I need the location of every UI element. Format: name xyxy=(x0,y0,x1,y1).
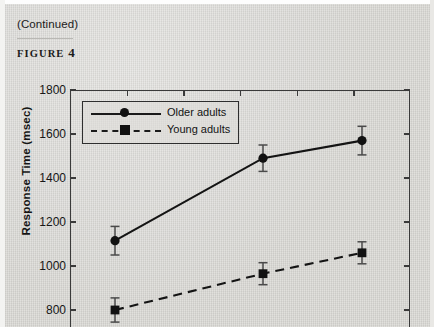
data-point-circle xyxy=(357,136,366,145)
scanned-page: (Continued) FIGURE 4 1800160014001200100… xyxy=(0,0,434,327)
y-axis-tick xyxy=(70,309,76,310)
y-axis-tick xyxy=(404,89,410,90)
x-axis-tick xyxy=(183,90,184,96)
x-axis-tick xyxy=(297,90,298,96)
y-axis-tick xyxy=(70,177,76,178)
data-point-circle xyxy=(110,236,119,245)
x-axis-tick xyxy=(127,90,128,96)
figure-number: 4 xyxy=(68,45,76,60)
data-point-square xyxy=(358,248,367,257)
y-axis-tick xyxy=(404,133,410,134)
data-point-square xyxy=(111,306,120,315)
data-point-circle xyxy=(258,154,267,163)
series-line-young-adults xyxy=(115,253,362,310)
y-axis-tick xyxy=(70,89,76,90)
y-axis-tick xyxy=(70,133,76,134)
figure-word: FIGURE xyxy=(17,48,64,59)
x-axis-tick xyxy=(240,90,241,96)
continued-note: (Continued) xyxy=(17,18,78,30)
y-axis-tick xyxy=(70,221,76,222)
y-axis-tick xyxy=(404,309,410,310)
series-line-older-adults xyxy=(115,141,362,241)
x-axis-tick xyxy=(353,90,354,96)
header-divider xyxy=(17,38,73,39)
data-point-square xyxy=(259,269,268,278)
y-axis-tick xyxy=(404,265,410,266)
y-axis-tick xyxy=(404,177,410,178)
y-axis-tick xyxy=(70,265,76,266)
y-axis-tick xyxy=(404,221,410,222)
figure-caption-label: FIGURE 4 xyxy=(17,45,76,61)
